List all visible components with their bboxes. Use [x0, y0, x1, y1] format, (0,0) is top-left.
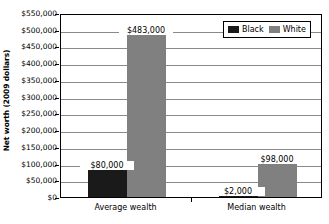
y-axis-tick-label: $550,000 — [11, 10, 57, 18]
bar-value-label: $80,000 — [80, 161, 134, 170]
y-axis-tick-label: $150,000 — [11, 144, 57, 152]
legend-label: Black — [242, 25, 264, 34]
y-axis-tick-label: $450,000 — [11, 43, 57, 51]
legend-swatch-icon — [269, 26, 280, 33]
y-axis-tick-mark — [55, 148, 59, 149]
y-axis-tick-label: $500,000 — [11, 27, 57, 35]
gridline — [61, 48, 321, 49]
y-axis-tick-mark — [55, 14, 59, 15]
y-axis-tick-mark — [55, 64, 59, 65]
bar-chart: Net worth (2009 dollars) $550,000$500,00… — [0, 0, 329, 224]
y-axis-tick-mark — [55, 131, 59, 132]
y-axis-tick-label: $100,000 — [11, 161, 57, 169]
bar-black-average — [88, 170, 127, 197]
legend-swatch-icon — [228, 26, 239, 33]
y-axis-tick-label: $400,000 — [11, 60, 57, 68]
y-axis-tick-label: $250,000 — [11, 110, 57, 118]
gridline — [61, 115, 321, 116]
y-axis-tick-label: $200,000 — [11, 127, 57, 135]
chart-legend: BlackWhite — [223, 21, 311, 38]
x-axis-category-label: Median wealth — [191, 203, 322, 212]
plot-area — [60, 14, 322, 198]
legend-entry-black[interactable]: Black — [228, 25, 264, 34]
y-axis-tick-mark — [55, 114, 59, 115]
x-axis-category-label: Average wealth — [60, 203, 191, 212]
y-axis-tick-mark — [55, 198, 59, 199]
y-axis-tick-label: $50,000 — [11, 177, 57, 185]
x-axis-tick-mark — [191, 198, 192, 202]
gridline — [61, 82, 321, 83]
y-axis-tick-labels: $550,000$500,000$450,000$400,000$350,000… — [12, 14, 60, 198]
y-axis-tick-label: $0 — [11, 194, 57, 202]
y-axis-tick-mark — [55, 98, 59, 99]
bar-white-average — [127, 35, 166, 197]
legend-entry-white[interactable]: White — [269, 25, 306, 34]
bar-value-label: $483,000 — [119, 26, 173, 35]
y-axis-tick-mark — [55, 47, 59, 48]
gridline — [61, 132, 321, 133]
gridline — [61, 149, 321, 150]
bar-value-label: $98,000 — [250, 155, 304, 164]
y-axis-tick-label: $350,000 — [11, 77, 57, 85]
y-axis-tick-label: $300,000 — [11, 94, 57, 102]
y-axis-tick-mark — [55, 181, 59, 182]
bar-value-label: $2,000 — [211, 187, 265, 196]
y-axis-tick-mark — [55, 31, 59, 32]
gridline — [61, 65, 321, 66]
bar-black-median — [219, 196, 258, 197]
y-axis-tick-mark — [55, 165, 59, 166]
legend-label: White — [283, 25, 306, 34]
gridline — [61, 99, 321, 100]
y-axis-tick-mark — [55, 81, 59, 82]
